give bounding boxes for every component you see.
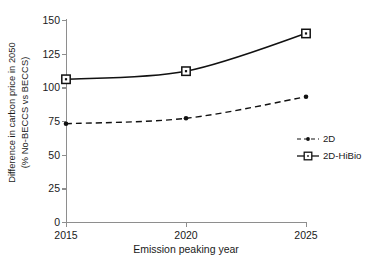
y-axis-label: Difference in carbon price in 2050 (% No… [0,0,34,230]
legend-item-2d-hibio: 2D-HiBio [297,147,370,164]
y-axis-label-line1: Difference in carbon price in 2050 [6,13,19,213]
plot-area: 0255075100125150 201520202025 [66,20,306,222]
x-tick-mark [186,222,187,227]
data-point-marker [184,116,189,121]
chart-figure: Difference in carbon price in 2050 (% No… [0,0,370,273]
y-tick-label: 125 [42,48,60,60]
y-tick-label: 100 [42,81,60,93]
data-point-marker-core [65,78,67,80]
x-tick-label: 2020 [174,229,197,241]
y-tick-label: 25 [48,182,60,194]
series-layer [66,20,306,222]
x-tick-label: 2025 [294,229,317,241]
y-axis-label-line2: (% No-BECCS vs BECCS) [18,13,31,213]
legend-solid-square-icon [297,150,319,162]
y-tick-label: 50 [48,149,60,161]
data-point-marker [64,121,69,126]
chart-legend: 2D 2D-HiBio [297,130,370,164]
y-tick-label: 0 [54,216,60,228]
data-point-marker-core [305,32,307,34]
y-tick-label: 75 [48,115,60,127]
x-tick-mark [306,222,307,227]
x-tick-mark [66,222,67,227]
x-axis-label: Emission peaking year [66,243,306,255]
legend-item-2d: 2D [297,130,370,147]
legend-label-2d-hibio: 2D-HiBio [323,150,361,161]
legend-label-2d: 2D [323,133,335,144]
data-point-marker-core [185,70,187,72]
legend-dashed-dot-icon [297,133,319,145]
data-point-marker [304,94,309,99]
x-tick-label: 2015 [54,229,77,241]
y-tick-label: 150 [42,14,60,26]
